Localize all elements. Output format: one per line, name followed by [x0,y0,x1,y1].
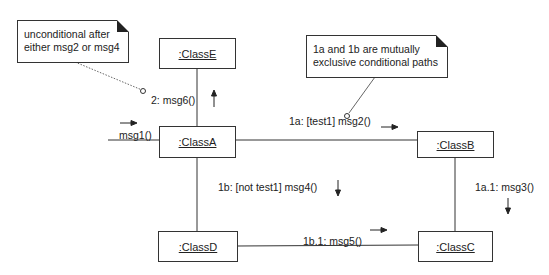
note-text: 1a and 1b are mutually exclusive conditi… [313,43,438,68]
note-fold-icon [436,35,448,47]
message-msg5: 1b.1: msg5() [303,235,362,247]
object-class-e[interactable]: :ClassE [159,38,236,69]
object-label: :ClassD [179,241,218,253]
note-fold-icon [117,20,129,32]
message-msg4: 1b: [not test1] msg4() [218,181,317,193]
object-label: :ClassE [179,48,217,60]
object-class-a[interactable]: :ClassA [159,126,236,158]
note-text: unconditional after either msg2 or msg4 [24,28,120,53]
object-label: :ClassB [437,139,475,151]
message-msg6: 2: msg6() [151,94,195,106]
object-label: :ClassC [436,241,475,253]
note-unconditional[interactable]: unconditional after either msg2 or msg4 [17,20,129,63]
object-class-b[interactable]: :ClassB [417,131,494,158]
message-msg2: 1a: [test1] msg2() [289,115,371,127]
note-mutually-exclusive[interactable]: 1a and 1b are mutually exclusive conditi… [306,35,448,78]
message-msg1: msg1() [119,129,152,141]
object-class-d[interactable]: :ClassD [158,231,238,262]
message-msg3: 1a.1: msg3() [475,181,534,193]
object-class-c[interactable]: :ClassC [418,231,493,262]
object-label: :ClassA [179,136,217,148]
